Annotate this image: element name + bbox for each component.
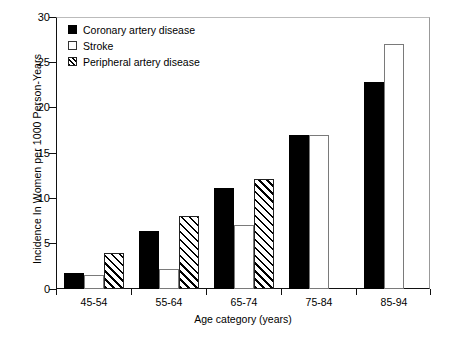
x-tick-mark-1 (131, 289, 132, 295)
legend-label-stroke: Stroke (83, 40, 113, 52)
x-tick-mark-0 (56, 289, 57, 295)
legend-item-peripheral-artery-disease: Peripheral artery disease (68, 54, 200, 69)
x-tick-mark-4 (356, 289, 357, 295)
legend-item-coronary-artery-disease: Coronary artery disease (68, 22, 200, 37)
bar-coronary-artery-disease-65-74 (214, 188, 234, 289)
bar-coronary-artery-disease-55-64 (139, 231, 159, 289)
bar-stroke-75-84 (309, 135, 329, 289)
x-tick-label-55-64: 55-64 (134, 296, 204, 308)
legend-item-stroke: Stroke (68, 38, 200, 53)
x-axis-title: Age category (years) (56, 313, 430, 325)
bar-coronary-artery-disease-45-54 (64, 273, 84, 289)
hatched-square-icon (68, 57, 77, 66)
bar-coronary-artery-disease-85-94 (364, 82, 384, 289)
x-tick-label-75-84: 75-84 (284, 296, 354, 308)
bar-stroke-45-54 (84, 275, 104, 289)
bar-coronary-artery-disease-75-84 (289, 135, 309, 289)
bar-peripheral-artery-disease-55-64 (179, 216, 199, 289)
open-square-icon (68, 41, 77, 50)
bar-chart-figure: Incidence In Women per 1000 Person-Years… (0, 0, 455, 337)
x-tick-label-45-54: 45-54 (59, 296, 129, 308)
bar-stroke-55-64 (159, 269, 179, 289)
legend-label-peripheral-artery-disease: Peripheral artery disease (83, 56, 200, 68)
bar-stroke-65-74 (234, 225, 254, 289)
bar-peripheral-artery-disease-65-74 (254, 179, 274, 289)
x-tick-mark-3 (281, 289, 282, 295)
x-tick-mark-5 (430, 289, 431, 295)
x-tick-label-65-74: 65-74 (209, 296, 279, 308)
chart-legend: Coronary artery disease Stroke Periphera… (68, 22, 200, 70)
x-tick-label-85-94: 85-94 (359, 296, 429, 308)
bar-peripheral-artery-disease-45-54 (104, 253, 124, 289)
bar-stroke-85-94 (384, 44, 404, 289)
filled-square-icon (68, 25, 77, 34)
legend-label-coronary-artery-disease: Coronary artery disease (83, 24, 195, 36)
x-tick-mark-2 (206, 289, 207, 295)
